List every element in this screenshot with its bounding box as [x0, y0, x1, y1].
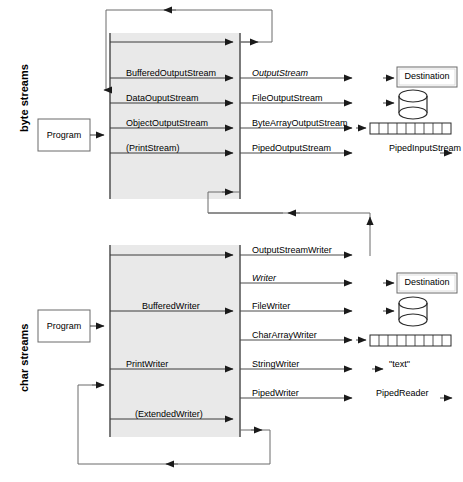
char-sink-char-array-writer: CharArrayWriter — [252, 330, 317, 340]
char-array-icon — [370, 335, 451, 346]
byte-filter-object-output-stream: ObjectOutputStream — [126, 118, 208, 128]
section-title-char-streams: char streams — [18, 324, 30, 393]
char-sink-string-writer: StringWriter — [252, 359, 299, 369]
diagram-canvas — [0, 0, 463, 482]
char-cylinder-icon — [399, 297, 427, 326]
char-sink-output-stream-writer: OutputStreamWriter — [252, 245, 332, 255]
byte-filter-stack — [110, 33, 240, 199]
section-title-byte-streams: byte streams — [18, 64, 30, 132]
char-destination-label: Destination — [397, 277, 457, 287]
char-filter-print-writer: PrintWriter — [126, 359, 168, 369]
char-filter-extended-writer: (ExtendedWriter) — [135, 409, 203, 419]
byte-array-icon — [370, 123, 451, 134]
char-sink-writer: Writer — [252, 273, 276, 283]
byte-sink-output-stream: OutputStream — [252, 68, 308, 78]
byte-filter-print-stream: (PrintStream) — [126, 143, 180, 153]
byte-filter-buffered-output-stream: BufferedOutputStream — [126, 68, 216, 78]
byte-filter-data-output-stream: DataOuputStream — [126, 93, 199, 103]
byte-target-piped-input-stream: PipedInputStream — [389, 143, 461, 153]
byte-sink-file-output-stream: FileOutputStream — [252, 93, 323, 103]
byte-sink-piped-output-stream: PipedOutputStream — [252, 143, 331, 153]
char-sink-piped-writer: PipedWriter — [252, 388, 299, 398]
char-target-text-literal: "text" — [389, 359, 410, 369]
char-sink-file-writer: FileWriter — [252, 301, 290, 311]
byte-destination-label: Destination — [397, 71, 457, 81]
char-target-piped-reader: PipedReader — [376, 388, 429, 398]
byte-program-label: Program — [38, 130, 90, 140]
byte-cylinder-icon — [399, 90, 427, 119]
io-streams-diagram: byte streams char streams Program Progra… — [0, 0, 463, 482]
char-program-label: Program — [38, 321, 90, 331]
byte-sink-byte-array-output-stream: ByteArrayOutputStream — [252, 118, 348, 128]
char-filter-buffered-writer: BufferedWriter — [142, 301, 200, 311]
